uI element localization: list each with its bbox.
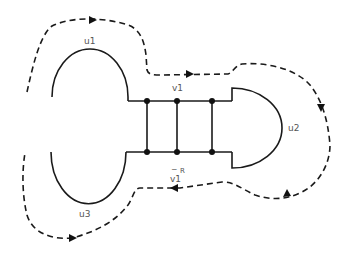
arrow-bottom-right-icon	[283, 189, 291, 197]
diagram-canvas: u1 u2 u3 v1 v1 ‾ R	[0, 0, 348, 256]
label-v1: v1	[172, 83, 183, 93]
arrow-v1-icon	[186, 70, 194, 78]
node-bottom-1	[144, 149, 150, 155]
u1-loop	[52, 49, 128, 101]
node-top-1	[144, 98, 150, 104]
node-bottom-2	[174, 149, 180, 155]
arrow-v1-reverse-icon	[170, 184, 178, 192]
label-u2: u2	[288, 123, 299, 133]
u2-loop	[232, 88, 282, 168]
label-u3: u3	[79, 209, 90, 219]
node-top-2	[174, 98, 180, 104]
label-v1-reverse-bar: ‾	[171, 168, 177, 178]
u3-loop	[51, 152, 126, 204]
arrow-bottom-left-icon	[69, 234, 77, 242]
label-u1: u1	[84, 36, 95, 46]
node-bottom-3	[209, 149, 215, 155]
label-v1-reverse-sup: R	[180, 167, 185, 175]
arrow-top-icon	[89, 16, 97, 24]
diagram-svg: u1 u2 u3 v1 v1 ‾ R	[0, 0, 348, 256]
node-top-3	[209, 98, 215, 104]
